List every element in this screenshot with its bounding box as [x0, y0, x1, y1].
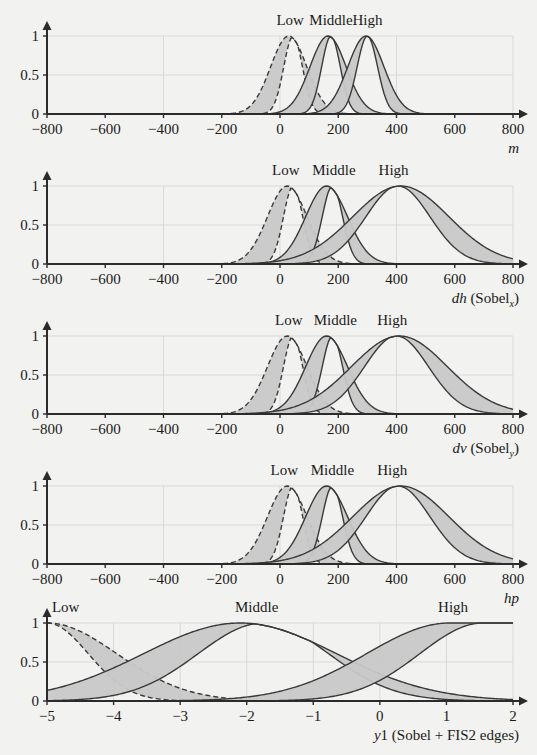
y-tick-label: 1	[32, 178, 40, 194]
plot-area-0: −800−600−400−200020040060080000.51LowMid…	[0, 8, 537, 158]
x-tick-label: −3	[172, 708, 188, 724]
x-tick-label: −800	[32, 121, 63, 137]
x-axis-label-2: dv (Sobely)	[452, 440, 519, 459]
y-tick-label: 0	[32, 693, 40, 709]
x-tick-label: 800	[502, 271, 525, 287]
x-tick-label: −600	[90, 571, 121, 587]
y-tick-labels: 00.51	[20, 328, 47, 422]
x-tick-label: 2	[509, 708, 517, 724]
set-labels: LowMiddleHigh	[275, 312, 408, 328]
x-tick-label: 200	[327, 121, 350, 137]
x-axis-label-1: dh (Sobelx)	[452, 290, 519, 309]
x-tick-label: −200	[206, 421, 237, 437]
x-tick-label: 200	[327, 271, 350, 287]
figure-membership-functions: −800−600−400−200020040060080000.51LowMid…	[0, 0, 537, 755]
x-tick-label: 800	[502, 571, 525, 587]
x-tick-label: 600	[444, 271, 467, 287]
set-label-low: Low	[271, 462, 299, 478]
x-tick-label: 200	[327, 421, 350, 437]
set-label-high: High	[352, 12, 383, 28]
x-tick-label: 400	[385, 121, 408, 137]
subplot-0: −800−600−400−200020040060080000.51LowMid…	[0, 8, 537, 158]
x-tick-label: −800	[32, 571, 63, 587]
x-tick-label: −400	[148, 421, 179, 437]
y-tick-label: 1	[32, 478, 40, 494]
set-label-low: Low	[275, 312, 303, 328]
y-tick-label: 0.5	[20, 67, 39, 83]
set-labels: LowMiddleHigh	[272, 162, 409, 178]
x-tick-label: −400	[148, 271, 179, 287]
x-tick-label: 400	[385, 421, 408, 437]
x-tick-label: −400	[148, 571, 179, 587]
subplot-3: −800−600−400−200020040060080000.51LowMid…	[0, 458, 537, 608]
x-tick-labels: −5−4−3−2−1012	[39, 701, 517, 724]
y-tick-label: 0	[32, 556, 40, 572]
x-tick-label: −400	[148, 121, 179, 137]
x-tick-label: −200	[206, 121, 237, 137]
set-labels: LowMiddleHigh	[271, 462, 408, 478]
x-tick-labels: −800−600−400−2000200400600800	[32, 114, 525, 137]
x-axis-label-4: y1 (Sobel + FIS2 edges)	[374, 727, 519, 744]
set-labels: LowMiddleHigh	[276, 12, 382, 28]
set-label-middle: Middle	[309, 12, 353, 28]
set-label-middle: Middle	[311, 462, 355, 478]
x-tick-label: −200	[206, 571, 237, 587]
x-tick-label: 0	[276, 121, 284, 137]
set-label-low: Low	[272, 162, 300, 178]
x-tick-label: 0	[276, 571, 284, 587]
x-tick-label: −800	[32, 421, 63, 437]
x-tick-label: 1	[443, 708, 451, 724]
y-tick-labels: 00.51	[20, 478, 47, 572]
y-tick-label: 0	[32, 106, 40, 122]
x-tick-labels: −800−600−400−2000200400600800	[32, 564, 525, 587]
x-tick-label: −5	[39, 708, 55, 724]
x-tick-label: −800	[32, 271, 63, 287]
plot-area-2: −800−600−400−200020040060080000.51LowMid…	[0, 308, 537, 458]
x-tick-label: 800	[502, 121, 525, 137]
x-tick-label: 0	[276, 271, 284, 287]
set-labels: LowMiddleHigh	[52, 599, 469, 615]
x-tick-label: −600	[90, 271, 121, 287]
y-tick-label: 0	[32, 256, 40, 272]
x-tick-label: 200	[327, 571, 350, 587]
set-label-middle: Middle	[312, 162, 356, 178]
y-tick-labels: 00.51	[20, 615, 47, 709]
set-label-high: High	[379, 162, 410, 178]
plot-area-1: −800−600−400−200020040060080000.51LowMid…	[0, 158, 537, 308]
x-tick-label: −600	[90, 421, 121, 437]
y-tick-label: 0.5	[20, 367, 39, 383]
set-label-middle: Middle	[314, 312, 358, 328]
x-tick-labels: −800−600−400−2000200400600800	[32, 414, 525, 437]
y-tick-label: 1	[32, 28, 40, 44]
x-tick-label: 600	[444, 121, 467, 137]
x-tick-label: −4	[106, 708, 122, 724]
set-label-middle: Middle	[235, 599, 279, 615]
x-tick-label: −600	[90, 121, 121, 137]
y-tick-label: 1	[32, 615, 40, 631]
set-label-low: Low	[276, 12, 304, 28]
y-tick-labels: 00.51	[20, 178, 47, 272]
y-tick-label: 0.5	[20, 517, 39, 533]
x-tick-label: 600	[444, 571, 467, 587]
x-tick-label: 800	[502, 421, 525, 437]
y-tick-label: 0.5	[20, 654, 39, 670]
y-tick-label: 1	[32, 328, 40, 344]
subplot-2: −800−600−400−200020040060080000.51LowMid…	[0, 308, 537, 458]
y-tick-labels: 00.51	[20, 28, 47, 122]
y-tick-label: 0	[32, 406, 40, 422]
plot-area-3: −800−600−400−200020040060080000.51LowMid…	[0, 458, 537, 608]
x-tick-label: 600	[444, 421, 467, 437]
x-tick-label: 400	[385, 571, 408, 587]
set-label-high: High	[377, 312, 408, 328]
x-tick-label: −200	[206, 271, 237, 287]
x-tick-labels: −800−600−400−2000200400600800	[32, 264, 525, 287]
x-tick-label: −1	[305, 708, 321, 724]
x-tick-label: 0	[276, 421, 284, 437]
subplot-1: −800−600−400−200020040060080000.51LowMid…	[0, 158, 537, 308]
x-axis-label-0: m	[508, 140, 519, 157]
set-label-low: Low	[52, 599, 80, 615]
y-tick-label: 0.5	[20, 217, 39, 233]
set-label-high: High	[438, 599, 469, 615]
x-tick-label: 0	[376, 708, 384, 724]
x-tick-label: 400	[385, 271, 408, 287]
